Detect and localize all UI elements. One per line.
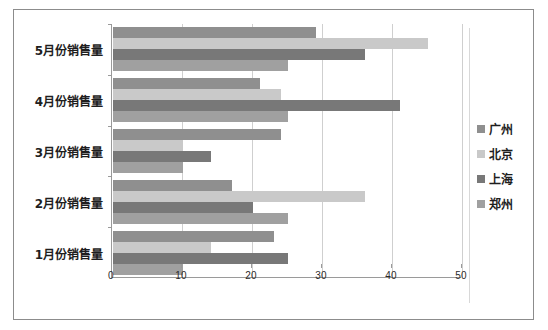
- bar-北京-1月份销售量[interactable]: [113, 242, 211, 253]
- legend-swatch-icon: [477, 200, 485, 208]
- category-group: 5月份销售量: [112, 24, 461, 75]
- legend-swatch-icon: [477, 175, 485, 183]
- chart-frame: 1月份销售量2月份销售量3月份销售量4月份销售量5月份销售量 010203040…: [13, 9, 534, 320]
- bar-北京-3月份销售量[interactable]: [113, 140, 183, 151]
- legend-item-广州[interactable]: 广州: [477, 116, 537, 141]
- legend-label: 北京: [489, 145, 513, 162]
- gridline: [462, 24, 463, 277]
- bar-广州-5月份销售量[interactable]: [113, 27, 316, 38]
- bar-郑州-5月份销售量[interactable]: [113, 60, 288, 71]
- category-label: 4月份销售量: [35, 92, 103, 109]
- legend-swatch-icon: [477, 125, 485, 133]
- x-axis-tick: [181, 264, 182, 268]
- x-axis-tick: [111, 264, 112, 268]
- x-axis-tick-label: 20: [236, 270, 266, 281]
- x-axis-tick-label: 10: [166, 270, 196, 281]
- category-label: 3月份销售量: [35, 142, 103, 159]
- bar-广州-3月份销售量[interactable]: [113, 129, 281, 140]
- bar-上海-3月份销售量[interactable]: [113, 151, 211, 162]
- plot-area: 1月份销售量2月份销售量3月份销售量4月份销售量5月份销售量: [111, 24, 461, 278]
- legend-label: 上海: [489, 170, 513, 187]
- category-label: 5月份销售量: [35, 41, 103, 58]
- category-tick: [108, 227, 112, 228]
- bar-北京-2月份销售量[interactable]: [113, 191, 365, 202]
- x-axis-tick-label: 0: [96, 270, 126, 281]
- bar-广州-1月份销售量[interactable]: [113, 231, 274, 242]
- x-axis-tick-label: 50: [446, 270, 476, 281]
- legend-label: 郑州: [489, 195, 513, 212]
- category-group: 1月份销售量: [112, 227, 461, 278]
- bar-北京-4月份销售量[interactable]: [113, 89, 281, 100]
- category-tick: [108, 24, 112, 25]
- bar-北京-5月份销售量[interactable]: [113, 38, 428, 49]
- chart-legend: 广州北京上海郑州: [477, 116, 537, 216]
- category-group: 3月份销售量: [112, 126, 461, 177]
- bar-上海-2月份销售量[interactable]: [113, 202, 253, 213]
- bar-上海-5月份销售量[interactable]: [113, 49, 365, 60]
- legend-item-上海[interactable]: 上海: [477, 166, 537, 191]
- x-axis-tick: [391, 264, 392, 268]
- bar-上海-4月份销售量[interactable]: [113, 100, 400, 111]
- x-axis-tick-label: 30: [306, 270, 336, 281]
- x-axis-tick: [461, 264, 462, 268]
- bar-郑州-2月份销售量[interactable]: [113, 213, 288, 224]
- category-tick: [108, 176, 112, 177]
- bar-郑州-4月份销售量[interactable]: [113, 111, 288, 122]
- bar-广州-2月份销售量[interactable]: [113, 180, 232, 191]
- category-group: 2月份销售量: [112, 176, 461, 227]
- bar-郑州-3月份销售量[interactable]: [113, 162, 183, 173]
- legend-divider: [469, 28, 470, 303]
- x-axis-tick: [321, 264, 322, 268]
- x-axis-tick-label: 40: [376, 270, 406, 281]
- legend-item-北京[interactable]: 北京: [477, 141, 537, 166]
- category-tick: [108, 75, 112, 76]
- legend-swatch-icon: [477, 150, 485, 158]
- category-group: 4月份销售量: [112, 75, 461, 126]
- bar-广州-4月份销售量[interactable]: [113, 78, 260, 89]
- bar-上海-1月份销售量[interactable]: [113, 253, 288, 264]
- category-tick: [108, 126, 112, 127]
- x-axis-tick: [251, 264, 252, 268]
- legend-label: 广州: [489, 120, 513, 137]
- legend-item-郑州[interactable]: 郑州: [477, 191, 537, 216]
- category-label: 1月份销售量: [35, 244, 103, 261]
- category-label: 2月份销售量: [35, 193, 103, 210]
